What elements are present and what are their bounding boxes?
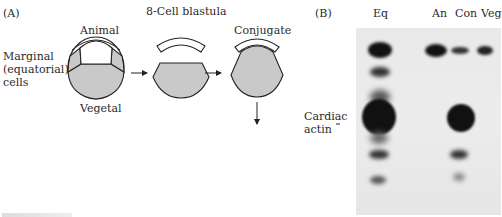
band-eq-smear-lower [370,132,388,144]
lane-label-an: An [432,7,447,20]
whole-embryo [68,37,124,99]
lane-label-con: Con [455,7,477,20]
cardiac-actin-label-line2: actin [304,123,332,136]
band-eq-cardiac-actin [362,99,396,135]
band-eq-2 [370,67,390,77]
band-con-bottom [453,173,465,181]
cardiac-actin-label-line1: Cardiac [304,110,348,123]
blastula-diagram [0,0,340,217]
separated-animal-cap [157,38,205,52]
conjugate-embryo [231,39,283,97]
band-con-lower [450,150,468,159]
band-eq-lower [369,150,389,159]
separated-vegetal [153,63,209,98]
cropped-caption [2,213,72,217]
lane-label-eq: Eq [373,7,388,20]
band-an-top [425,44,447,57]
lane-label-veg: Veg [481,7,502,20]
band-eq-top [368,42,392,58]
band-con-cardiac-actin [447,104,475,132]
northern-blot-gel [356,28,501,215]
band-eq-bottom [370,176,386,184]
panel-b-letter: (B) [315,7,332,20]
band-con-top [451,47,469,54]
band-veg-top [477,46,493,55]
